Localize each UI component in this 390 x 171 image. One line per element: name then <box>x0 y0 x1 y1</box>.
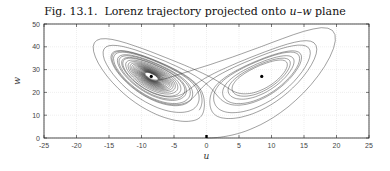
x-axis-label: u <box>204 151 210 161</box>
grid-lines <box>44 24 369 138</box>
x-tick-label: 10 <box>268 142 276 149</box>
y-tick-label: 50 <box>32 21 40 28</box>
y-axis-label: w <box>12 77 22 85</box>
x-tick-label: -10 <box>136 142 146 149</box>
start-point-marker <box>205 135 207 138</box>
x-tick-label: -20 <box>71 142 81 149</box>
trajectory-line <box>93 28 335 138</box>
x-tick-label: 20 <box>333 142 341 149</box>
x-tick-label: -15 <box>104 142 114 149</box>
y-tick-label: 0 <box>36 135 40 142</box>
y-tick-label: 30 <box>32 66 40 73</box>
fixed-point-marker <box>260 75 263 78</box>
y-tick-label: 40 <box>32 43 40 50</box>
x-tick-label: 15 <box>300 142 308 149</box>
y-tick-label: 10 <box>32 112 40 119</box>
plot-area: -25-20-15-10-5051015202501020304050 u w <box>0 0 390 171</box>
x-tick-label: 5 <box>237 142 241 149</box>
x-tick-label: 25 <box>365 142 373 149</box>
x-tick-label: 0 <box>205 142 209 149</box>
x-tick-label: -5 <box>171 142 177 149</box>
tick-labels: -25-20-15-10-5051015202501020304050 <box>32 21 373 150</box>
x-tick-label: -25 <box>39 142 49 149</box>
y-tick-label: 20 <box>32 89 40 96</box>
fixed-point-marker <box>150 75 153 78</box>
